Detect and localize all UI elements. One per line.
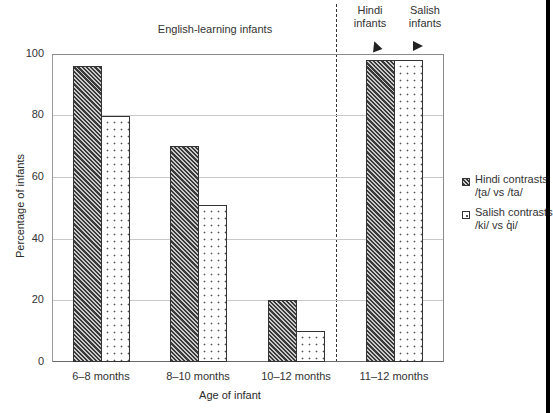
x-axis-label: Age of infant xyxy=(170,389,290,401)
bar-salish-2 xyxy=(296,331,325,362)
hindi-infants-label-line2: infants xyxy=(345,17,395,30)
y-axis-label: Percentage of infants xyxy=(14,146,26,266)
x-category-8-10-months: 8–10 months xyxy=(148,370,248,382)
x-category-10-12-months: 10–12 months xyxy=(246,370,346,382)
bar-salish-1 xyxy=(198,205,227,362)
legend-hindi-line1: Hindi contrasts xyxy=(475,173,548,186)
bar-hindi-1 xyxy=(170,146,199,362)
bar-salish-3 xyxy=(394,60,423,362)
ytick-100: 100 xyxy=(14,47,44,59)
arrow-up-left-icon xyxy=(370,40,383,53)
x-category-11-12-months: 11–12 months xyxy=(344,370,444,382)
legend-salish-label: Salish contrasts /ki/ vs q̓i/ xyxy=(475,206,553,232)
legend-hindi-swatch xyxy=(462,178,470,186)
salish-infants-label: Salish infants xyxy=(400,4,450,30)
hindi-infants-label-line1: Hindi xyxy=(345,4,395,17)
bar-salish-0 xyxy=(101,116,130,362)
bar-hindi-2 xyxy=(268,300,297,362)
legend-salish-swatch xyxy=(462,211,470,219)
legend-hindi-label: Hindi contrasts /ʈa/ vs /ta/ xyxy=(475,173,548,199)
ytick-0: 0 xyxy=(14,355,44,367)
legend-salish-line2: /ki/ vs q̓i/ xyxy=(475,219,553,232)
bar-hindi-3 xyxy=(366,60,395,362)
salish-infants-label-line2: infants xyxy=(400,17,450,30)
ytick-20: 20 xyxy=(14,293,44,305)
arrow-right-icon xyxy=(413,41,423,51)
right-edge-black-strip xyxy=(546,0,550,413)
ytick-80: 80 xyxy=(14,108,44,120)
hindi-infants-label: Hindi infants xyxy=(345,4,395,30)
salish-infants-label-line1: Salish xyxy=(400,4,450,17)
bar-hindi-0 xyxy=(73,66,102,362)
legend-salish-line1: Salish contrasts xyxy=(475,206,553,219)
x-category-6-8-months: 6–8 months xyxy=(51,370,151,382)
legend-hindi-line2: /ʈa/ vs /ta/ xyxy=(475,186,548,199)
english-learning-group-label: English-learning infants xyxy=(130,23,300,36)
